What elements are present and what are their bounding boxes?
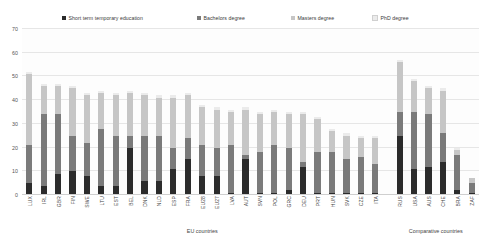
bar-DNK: [141, 93, 147, 195]
x-axis-tick-label: SVN: [257, 196, 263, 207]
legend-swatch-phd-icon: [372, 15, 378, 21]
bar-segment: [286, 114, 292, 147]
y-axis-tick-label: 50: [12, 73, 18, 79]
bar-LVA: [228, 110, 234, 195]
bar-segment: [55, 86, 61, 114]
bar-FRA: [185, 93, 191, 195]
bar-segment: [214, 148, 220, 176]
bar-CZE: [358, 136, 364, 195]
y-axis-labels: 010203040506070: [0, 29, 20, 195]
bar-segment: [425, 167, 431, 195]
x-axis-labels: LUXIRLGBRFINSWELTUESTBELDNKNLDESPFRAEU28…: [22, 196, 479, 226]
x-axis-tick-label: AUT: [243, 196, 249, 206]
bar-segment: [185, 95, 191, 138]
bar-segment: [84, 176, 90, 195]
legend-label-phd: PhD degree: [381, 15, 409, 21]
bar-segment: [440, 162, 446, 195]
bar-DEU: [300, 112, 306, 195]
bar-POL: [271, 110, 277, 195]
bar-segment: [425, 114, 431, 166]
bar-segment: [141, 95, 147, 135]
chart-root: Short term temporary education Bachelors…: [0, 0, 484, 246]
x-axis-tick-label: EST: [113, 196, 119, 206]
bar-segment: [170, 98, 176, 148]
bar-segment: [214, 110, 220, 148]
legend-swatch-short-term-icon: [62, 16, 66, 20]
bar-segment: [358, 138, 364, 157]
bar-EST: [113, 93, 119, 195]
bar-IRL: [41, 84, 47, 195]
legend-swatch-masters-icon: [291, 16, 295, 20]
legend-item-bachelors: Bachelors degree: [197, 15, 245, 21]
legend-swatch-bachelors-icon: [197, 16, 201, 20]
legend-item-phd: PhD degree: [372, 15, 409, 21]
bar-LUX: [26, 72, 32, 195]
bar-segment: [411, 112, 417, 169]
bar-segment: [300, 167, 306, 195]
bar-segment: [156, 98, 162, 136]
bar-segment: [55, 174, 61, 195]
bar-segment: [199, 107, 205, 145]
group-label-comparative: Comparative countries: [401, 228, 471, 234]
bar-segment: [185, 159, 191, 195]
bar-segment: [113, 95, 119, 135]
x-axis-tick-label: ESP: [171, 196, 177, 206]
bar-segment: [343, 136, 349, 160]
bar-segment: [113, 136, 119, 186]
bar-HUN: [329, 129, 335, 195]
bar-segment: [372, 138, 378, 164]
bar-PRT: [314, 117, 320, 195]
x-axis-tick-label: DNK: [142, 196, 148, 207]
x-axis-tick-label: LTU: [99, 196, 105, 205]
legend-label-short-term: Short term temporary education: [69, 15, 143, 21]
bar-BEL: [127, 91, 133, 195]
y-axis-tick-label: 60: [12, 50, 18, 56]
bar-segment: [411, 81, 417, 112]
x-axis-tick-label: SVK: [344, 196, 350, 206]
x-axis-tick-label: FRA: [185, 196, 191, 206]
bar-segment: [314, 152, 320, 192]
y-axis-tick-label: 0: [15, 192, 18, 198]
bar-SVN: [257, 112, 263, 195]
bar-USA: [411, 79, 417, 195]
x-axis-tick-label: FIN: [70, 196, 76, 204]
bar-segment: [127, 93, 133, 136]
bar-segment: [271, 145, 277, 192]
bar-segment: [469, 183, 475, 192]
x-axis-tick-label: LUX: [27, 196, 33, 206]
bar-segment: [26, 145, 32, 183]
bar-series-container: [22, 29, 479, 195]
bar-segment: [440, 91, 446, 134]
bar-segment: [257, 152, 263, 192]
bar-segment: [141, 136, 147, 181]
bar-FIN: [69, 86, 75, 195]
legend-label-masters: Masters degree: [298, 15, 335, 21]
bar-segment: [98, 129, 104, 186]
bar-segment: [242, 110, 248, 155]
x-axis-tick-label: RUS: [397, 196, 403, 207]
bar-segment: [69, 136, 75, 172]
x-axis-tick-label: USA: [412, 196, 418, 207]
y-axis-tick-label: 20: [12, 145, 18, 151]
bar-segment: [440, 133, 446, 161]
x-axis-tick-label: GBR: [56, 196, 62, 207]
bar-segment: [397, 62, 403, 112]
bar-EU28: [199, 105, 205, 195]
x-axis-tick-label: PRT: [315, 196, 321, 206]
bar-AUT: [242, 107, 248, 195]
y-axis-tick-label: 30: [12, 121, 18, 127]
x-axis-tick-label: DEU: [301, 196, 307, 207]
bar-segment: [329, 152, 335, 192]
bar-segment: [156, 181, 162, 195]
x-axis-tick-label: EU27: [214, 196, 220, 209]
bar-segment: [271, 112, 277, 145]
bar-segment: [199, 176, 205, 195]
bar-LTU: [98, 91, 104, 195]
bar-segment: [454, 155, 460, 191]
bar-segment: [300, 114, 306, 161]
x-axis-tick-label: POL: [272, 196, 278, 206]
bar-SVK: [343, 133, 349, 195]
bar-segment: [397, 136, 403, 195]
y-axis-tick-label: 70: [12, 26, 18, 32]
x-axis-tick-label: NLD: [156, 196, 162, 206]
